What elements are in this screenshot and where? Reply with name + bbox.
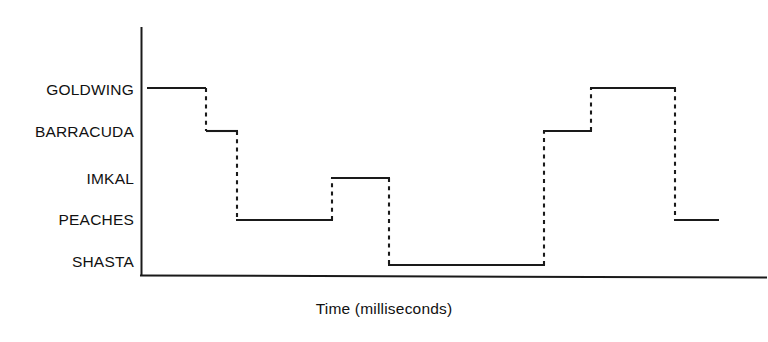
step-chart: GOLDWING BARRACUDA IMKAL PEACHES SHASTA	[0, 0, 768, 342]
x-axis-title: Time (milliseconds)	[0, 300, 768, 318]
x-axis-line	[141, 276, 766, 278]
step-series-state	[147, 88, 719, 265]
plot-area	[0, 0, 768, 342]
